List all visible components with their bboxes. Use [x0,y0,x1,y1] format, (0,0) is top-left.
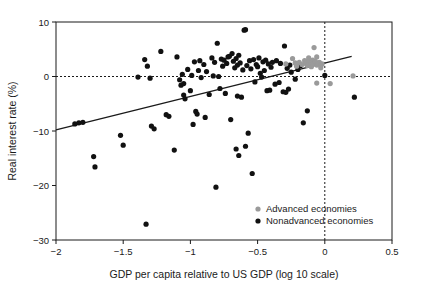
data-point [209,55,214,60]
data-point [142,57,147,62]
data-point [262,68,267,73]
data-point [80,120,85,125]
data-point [251,57,256,62]
data-point [143,222,148,227]
data-point [267,88,272,93]
x-tick-label: −2 [51,246,62,257]
data-point [246,131,251,136]
y-tick-label: −30 [33,235,49,246]
data-point [278,61,283,66]
data-point [180,72,185,77]
data-point [212,60,217,65]
data-point [328,81,333,86]
data-point [182,96,187,101]
x-tick-label: 0 [322,246,327,257]
scatter-plot: −2−1.5−1−0.500.5 −30−20−10010 Advanced e… [0,0,440,287]
data-point [250,171,255,176]
data-point [217,86,222,91]
x-tick-label: −0.5 [248,246,267,257]
data-point [350,73,355,78]
data-point [216,74,221,79]
data-point [293,77,298,82]
data-point [229,51,234,56]
data-point [118,133,123,138]
data-point [256,55,261,60]
data-point [283,61,288,66]
y-axis-ticks: −30−20−10010 [33,17,56,246]
data-point [239,95,244,100]
x-tick-label: 0.5 [385,246,398,257]
data-point [135,74,140,79]
data-point [174,54,179,59]
data-point [190,122,195,127]
legend-marker [255,206,260,211]
data-point [301,120,306,125]
data-point [145,64,150,69]
data-point [201,62,206,67]
data-point [158,49,163,54]
data-point [248,66,253,71]
data-point [192,59,197,64]
data-point [236,153,241,158]
data-point [305,108,310,113]
data-point [290,56,295,61]
data-point [322,73,327,78]
data-point [172,147,177,152]
x-tick-label: −1.5 [114,246,133,257]
data-point [147,76,152,81]
data-point [185,67,190,72]
data-point [268,65,273,70]
data-point [91,154,96,159]
data-point [255,64,260,69]
data-point [240,67,245,72]
data-point [314,54,319,59]
y-axis-title: Real interest rate (%) [6,81,18,180]
y-tick-label: 10 [38,17,49,28]
data-point [215,41,220,46]
data-point [243,144,248,149]
data-point [203,115,208,120]
y-tick-label: −10 [33,126,49,137]
legend-label: Advanced economies [266,203,357,214]
legend-label: Nonadvanced economies [266,215,373,226]
x-axis-title: GDP per capita relative to US GDP (log 1… [110,268,339,280]
data-point [197,58,202,63]
legend-marker [255,218,260,223]
data-point [252,79,257,84]
data-point [244,63,249,68]
data-point [204,69,209,74]
data-point [352,95,357,100]
data-point [181,81,186,86]
x-tick-label: −1 [185,246,196,257]
data-point [282,43,287,48]
data-point [199,75,204,80]
data-point [320,61,325,66]
data-point [223,91,228,96]
data-point [314,80,319,85]
y-tick-label: −20 [33,180,49,191]
data-point [166,114,171,119]
y-tick-label: 0 [44,71,49,82]
data-point [211,73,216,78]
data-point [236,53,241,58]
data-point [243,27,248,32]
data-point [228,117,233,122]
data-point [286,86,291,91]
data-point [121,143,126,148]
data-point [189,73,194,78]
data-point [277,80,282,85]
x-axis-ticks: −2−1.5−1−0.500.5 [51,240,399,257]
chart-legend: Advanced economiesNonadvanced economies [255,203,373,226]
data-point [195,112,200,117]
data-point [224,61,229,66]
data-point [152,126,157,131]
data-point [207,92,212,97]
data-point [289,70,294,75]
data-point [238,60,243,65]
data-point [196,68,201,73]
chart-figure: −2−1.5−1−0.500.5 −30−20−10010 Advanced e… [0,0,440,287]
data-point [92,164,97,169]
data-point [311,45,316,50]
data-point [213,185,218,190]
data-point [259,74,264,79]
